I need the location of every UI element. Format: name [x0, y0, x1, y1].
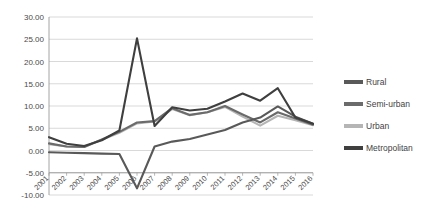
- legend-item-urban[interactable]: Urban: [344, 118, 432, 134]
- legend-swatch-urban: [344, 124, 363, 128]
- y-axis-tick-label: 20.00: [24, 58, 45, 67]
- x-axis-tick-label: 2003: [67, 174, 85, 192]
- gridlines: [49, 17, 313, 195]
- x-axis-tick-label: 2012: [226, 174, 244, 192]
- x-axis-tick-label: 2015: [279, 174, 297, 192]
- x-axis-tick-label: 2016: [296, 174, 314, 192]
- x-axis-tick-label: 2007: [138, 174, 156, 192]
- y-axis-tick-label: 15.00: [24, 80, 45, 89]
- x-axis-tick-label: 2004: [85, 174, 103, 192]
- y-axis-tick-label: 0.00: [28, 147, 44, 156]
- x-axis-tick-label: 2008: [155, 174, 173, 192]
- legend-item-metropolitan[interactable]: Metropolitan: [344, 140, 432, 156]
- x-axis-tick-labels: 2001200220032004200520062007200820092010…: [32, 174, 314, 192]
- x-axis-tick-label: 2011: [209, 174, 227, 192]
- chart-legend: Rural Semi-urban Urban Metropolitan: [344, 74, 432, 162]
- legend-item-semi-urban[interactable]: Semi-urban: [344, 96, 432, 112]
- legend-label-metropolitan: Metropolitan: [366, 144, 413, 153]
- y-axis-tick-label: 5.00: [28, 124, 44, 133]
- line-chart: 30.0025.0020.0015.0010.005.000.00-5.00-1…: [0, 0, 432, 215]
- y-axis-tick-label: 30.00: [24, 13, 45, 22]
- y-axis-tick-label: 10.00: [24, 102, 45, 111]
- plot-svg: 30.0025.0020.0015.0010.005.000.00-5.00-1…: [0, 0, 330, 215]
- x-axis-tick-label: 2002: [50, 174, 68, 192]
- legend-swatch-semi-urban: [344, 102, 363, 106]
- legend-label-semi-urban: Semi-urban: [366, 100, 410, 109]
- x-axis-tick-label: 2010: [191, 174, 209, 192]
- legend-label-rural: Rural: [366, 78, 386, 87]
- x-axis-tick-label: 2006: [120, 174, 138, 192]
- legend-label-urban: Urban: [366, 122, 389, 131]
- x-axis-tick-label: 2009: [173, 174, 191, 192]
- series-line-metropolitan: [49, 38, 313, 146]
- y-axis-tick-label: -10.00: [21, 191, 44, 200]
- data-series: [49, 38, 313, 188]
- x-axis-tick-label: 2005: [103, 174, 121, 192]
- plot-area: 30.0025.0020.0015.0010.005.000.00-5.00-1…: [0, 0, 330, 215]
- x-axis-tick-label: 2013: [243, 174, 261, 192]
- legend-item-rural[interactable]: Rural: [344, 74, 432, 90]
- y-axis-tick-label: 25.00: [24, 35, 45, 44]
- y-axis-tick-labels: 30.0025.0020.0015.0010.005.000.00-5.00-1…: [21, 13, 44, 200]
- legend-swatch-metropolitan: [344, 146, 363, 150]
- legend-swatch-rural: [344, 80, 363, 84]
- x-axis-tick-label: 2014: [261, 174, 279, 192]
